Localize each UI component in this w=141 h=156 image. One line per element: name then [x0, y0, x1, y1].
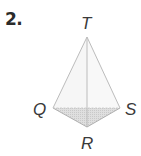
vertex-label-Q: Q — [33, 101, 46, 118]
pyramid-figure — [0, 0, 141, 156]
vertex-label-T: T — [81, 15, 91, 32]
vertex-label-R: R — [81, 135, 93, 152]
vertex-label-S: S — [125, 101, 136, 118]
